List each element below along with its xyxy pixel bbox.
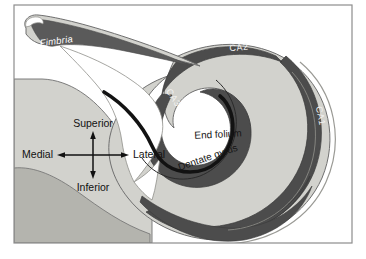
hippocampus-diagram-figure: Fimbria CA2 CA3 CA1 End folium Dentate g… [0,0,366,259]
compass-label-medial: Medial [22,148,53,160]
diagram-canvas: Fimbria CA2 CA3 CA1 End folium Dentate g… [0,0,366,259]
compass-label-superior: Superior [73,117,113,129]
compass-label-lateral: Lateral [133,148,165,160]
compass-label-inferior: Inferior [77,181,110,193]
label-ca2: CA2 [229,41,249,53]
